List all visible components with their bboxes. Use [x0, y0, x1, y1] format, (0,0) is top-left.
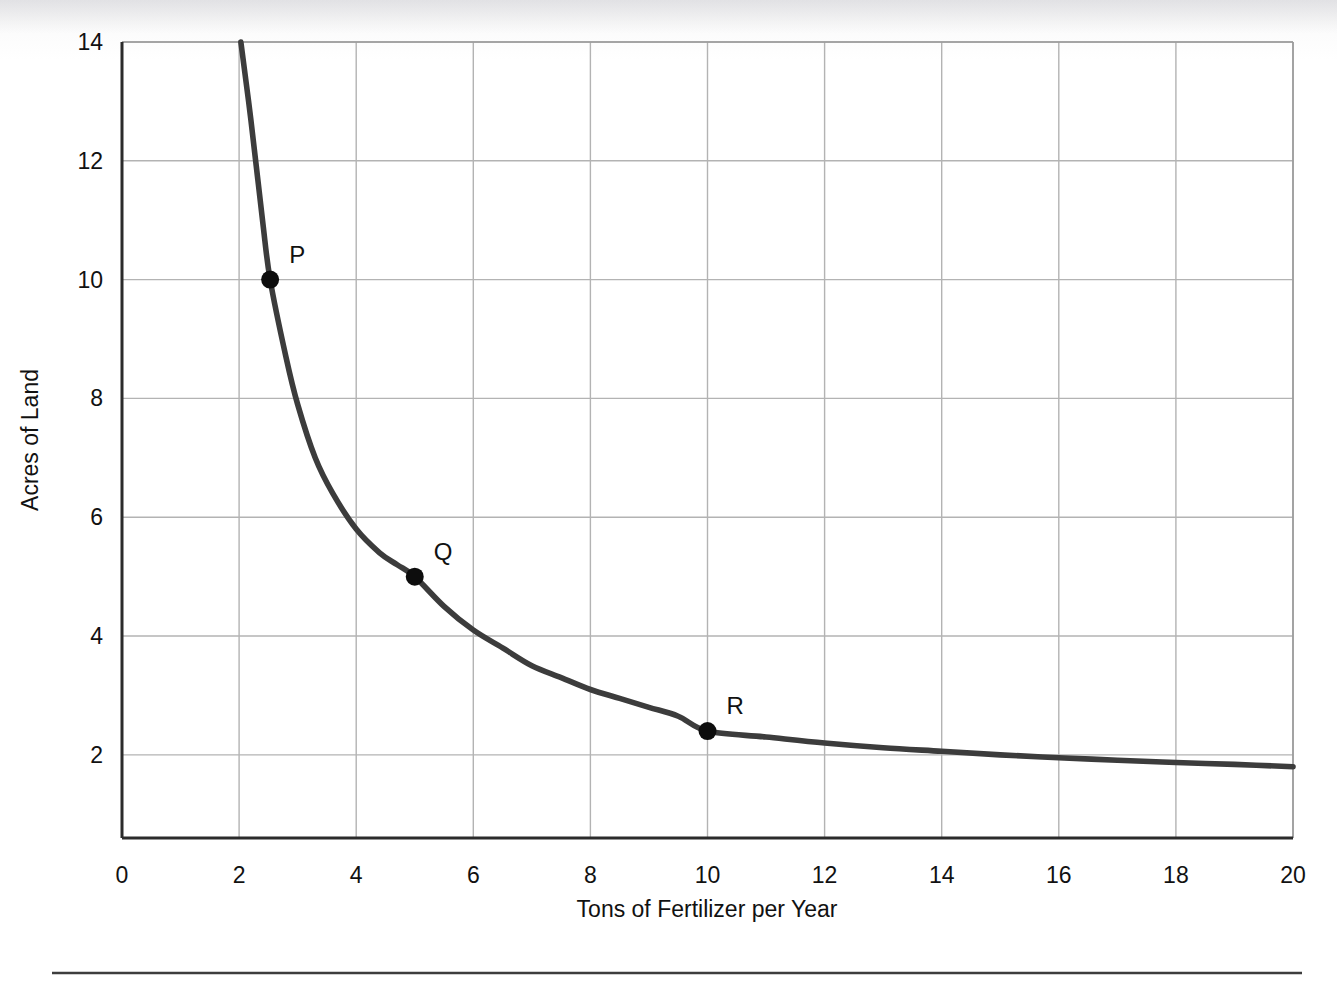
- x-tick-label: 16: [1046, 862, 1072, 888]
- isoquant-curve: [241, 42, 1293, 767]
- y-tick-label: 10: [77, 267, 103, 293]
- x-tick-label: 10: [695, 862, 721, 888]
- y-tick-label: 12: [77, 148, 103, 174]
- x-axis-title: Tons of Fertilizer per Year: [577, 896, 838, 922]
- isoquant-chart-figure: 02468101214161820 2468101214 PQR Tons of…: [0, 0, 1337, 984]
- data-point-label-r: R: [727, 692, 744, 719]
- data-point-label-q: Q: [434, 538, 453, 565]
- y-axis-title: Acres of Land: [17, 369, 43, 511]
- x-tick-label: 4: [350, 862, 363, 888]
- data-point-marker-p[interactable]: [261, 271, 279, 289]
- x-tick-label: 12: [812, 862, 838, 888]
- chart-canvas: 02468101214161820 2468101214 PQR Tons of…: [0, 0, 1337, 984]
- y-tick-label: 6: [90, 504, 103, 530]
- x-axis-tick-labels: 02468101214161820: [116, 862, 1306, 888]
- y-axis-tick-labels: 2468101214: [77, 29, 103, 768]
- data-point-marker-r[interactable]: [699, 722, 717, 740]
- x-tick-label: 6: [467, 862, 480, 888]
- gridlines-group: [122, 42, 1293, 838]
- x-tick-label: 2: [233, 862, 246, 888]
- y-tick-label: 2: [90, 742, 103, 768]
- x-tick-label: 0: [116, 862, 129, 888]
- y-tick-label: 4: [90, 623, 103, 649]
- data-point-marker-q[interactable]: [406, 568, 424, 586]
- y-tick-label: 14: [77, 29, 103, 55]
- x-tick-label: 18: [1163, 862, 1189, 888]
- x-tick-label: 8: [584, 862, 597, 888]
- y-tick-label: 8: [90, 385, 103, 411]
- x-tick-label: 20: [1280, 862, 1306, 888]
- x-tick-label: 14: [929, 862, 955, 888]
- data-point-label-p: P: [289, 241, 305, 268]
